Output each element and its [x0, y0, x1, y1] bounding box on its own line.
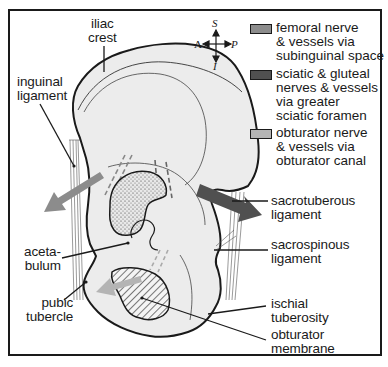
- compass-posterior-label: P: [231, 38, 238, 50]
- legend-item-femoral: femoral nerve & vessels via subinguinal …: [250, 21, 384, 63]
- legend-label-obturator: obturator nerve & vessels via obturator …: [276, 126, 368, 168]
- label-sacrotuberous-ligament: sacrotuberous ligament: [271, 194, 355, 222]
- compass-anterior-label: A: [194, 38, 202, 50]
- label-obturator-membrane: obturator membrane: [271, 328, 335, 356]
- legend-item-sciatic: sciatic & gluteal nerves & vessels via g…: [250, 67, 378, 123]
- compass-inferior-label: I: [213, 60, 217, 72]
- legend-swatch-sciatic: [250, 70, 272, 80]
- label-ischial-tuberosity: ischial tuberosity: [271, 297, 329, 325]
- label-acetabulum: aceta- bulum: [24, 245, 61, 273]
- legend-swatch-femoral: [250, 24, 272, 34]
- label-pubic-tubercle: pubic tubercle: [26, 296, 73, 324]
- legend-item-obturator: obturator nerve & vessels via obturator …: [250, 126, 368, 168]
- legend-swatch-obturator: [250, 129, 272, 139]
- label-sacrospinous-ligament: sacrospinous ligament: [271, 238, 349, 266]
- compass-superior-label: S: [212, 17, 218, 29]
- legend-label-femoral: femoral nerve & vessels via subinguinal …: [276, 21, 384, 63]
- legend-label-sciatic: sciatic & gluteal nerves & vessels via g…: [276, 67, 378, 123]
- label-inguinal-ligament: inguinal ligament: [17, 75, 67, 103]
- inguinal-ligament-shape: [69, 140, 83, 300]
- label-iliac-crest: iliac crest: [88, 17, 117, 45]
